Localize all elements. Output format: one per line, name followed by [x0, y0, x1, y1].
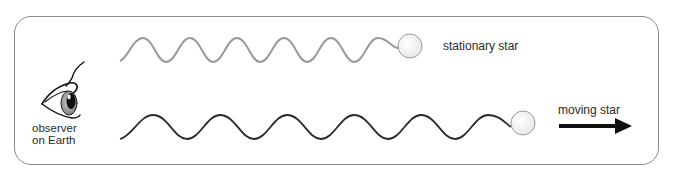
arrow-right-icon [559, 118, 632, 134]
stationary-star-label: stationary star [443, 40, 518, 53]
observer-label-line1: observer [32, 122, 77, 134]
stationary-star-icon [398, 34, 422, 58]
observer-label: observer on Earth [32, 122, 77, 146]
moving-wave [120, 115, 511, 139]
observer-label-line2: on Earth [32, 134, 77, 146]
stationary-wave [120, 38, 398, 62]
moving-star-icon [511, 111, 535, 135]
eye-icon [42, 62, 84, 118]
moving-star-label: moving star [558, 104, 620, 117]
diagram-art [0, 0, 676, 172]
